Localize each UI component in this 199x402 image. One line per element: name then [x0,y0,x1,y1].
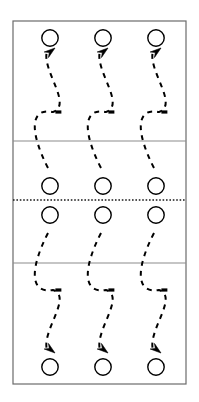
diagram-canvas [0,0,199,402]
s-curve-upper-stroke [141,51,166,168]
node-circle [148,178,164,194]
frame-layer [13,21,186,384]
node-circle [95,30,111,46]
node-circle [148,359,164,375]
circle-layer [42,30,164,375]
divider-layer [13,141,186,263]
node-circle [42,207,58,223]
node-circle [148,30,164,46]
node-circle [95,178,111,194]
node-circle [95,359,111,375]
node-circle [42,30,58,46]
node-circle [42,178,58,194]
node-circle [42,359,58,375]
node-circle [148,207,164,223]
s-curve-upper-stroke [35,51,60,168]
figure-root [0,0,199,402]
node-circle [95,207,111,223]
outer-frame [13,21,186,384]
s-curve-upper-stroke [88,51,113,168]
